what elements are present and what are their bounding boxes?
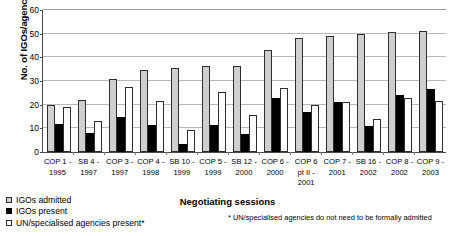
legend-item: UN/specialised agencies present* bbox=[6, 217, 145, 229]
bar-group bbox=[43, 10, 74, 152]
x-tick-mark bbox=[228, 152, 229, 155]
y-tick-label-60: 60 bbox=[15, 6, 39, 14]
x-tick-label: COP 6 pt II - 2001 bbox=[291, 157, 322, 189]
x-tick-label: COP 4 - 1998 bbox=[135, 157, 166, 189]
bar bbox=[342, 102, 350, 152]
bar-group bbox=[198, 10, 229, 152]
bar bbox=[86, 133, 94, 152]
bar bbox=[156, 101, 164, 152]
bar bbox=[295, 38, 303, 152]
x-tick-mark bbox=[104, 152, 105, 155]
bar bbox=[202, 66, 210, 152]
legend-label: IGOs present bbox=[16, 206, 67, 216]
bar bbox=[249, 115, 257, 152]
bar-group bbox=[229, 10, 260, 152]
x-tick-label: SB 4 - 1997 bbox=[73, 157, 104, 189]
bar bbox=[365, 126, 373, 152]
bar-group bbox=[353, 10, 384, 152]
bar bbox=[272, 98, 280, 152]
x-tick-mark bbox=[290, 152, 291, 155]
bar bbox=[264, 50, 272, 152]
bar bbox=[233, 66, 241, 152]
x-tick-mark bbox=[135, 152, 136, 155]
bar bbox=[187, 130, 195, 152]
legend-label: UN/specialised agencies present* bbox=[16, 218, 145, 228]
bar bbox=[311, 105, 319, 152]
x-tick-label: COP 5 - 1999 bbox=[197, 157, 228, 189]
x-tick-label: COP 6 - 2000 bbox=[260, 157, 291, 189]
bar-group bbox=[415, 10, 446, 152]
legend-item: IGOs admitted bbox=[6, 194, 145, 206]
bar bbox=[280, 88, 288, 152]
y-tick-mark-0 bbox=[40, 152, 43, 153]
y-tick-label-0: 0 bbox=[15, 148, 39, 156]
y-tick-label-10: 10 bbox=[15, 124, 39, 132]
x-tick-label: COP 3 - 1997 bbox=[104, 157, 135, 189]
x-tick-label: COP 1 - 1995 bbox=[42, 157, 73, 189]
x-tick-mark bbox=[197, 152, 198, 155]
legend-swatch-icon bbox=[6, 197, 12, 203]
y-tick-label-30: 30 bbox=[15, 77, 39, 85]
x-tick-mark bbox=[321, 152, 322, 155]
bar bbox=[388, 32, 396, 152]
x-tick-mark bbox=[166, 152, 167, 155]
bar-group bbox=[384, 10, 415, 152]
bar bbox=[357, 34, 365, 152]
bar bbox=[404, 98, 412, 152]
bar-group bbox=[167, 10, 198, 152]
legend-label: IGOs admitted bbox=[16, 195, 71, 205]
bar bbox=[303, 112, 311, 152]
bar bbox=[396, 95, 404, 152]
x-tick-label: SB 12 - 2000 bbox=[228, 157, 259, 189]
bar bbox=[334, 102, 342, 152]
bar bbox=[435, 101, 443, 152]
x-tick-mark bbox=[73, 152, 74, 155]
footnote: * UN/specialised agencies do not need to… bbox=[228, 213, 432, 222]
bar bbox=[218, 92, 226, 152]
bar bbox=[171, 68, 179, 152]
bar bbox=[241, 134, 249, 152]
bar-group bbox=[74, 10, 105, 152]
x-tick-label: SB 10 - 1999 bbox=[166, 157, 197, 189]
legend-item: IGOs present bbox=[6, 206, 145, 218]
plot-area: 0102030405060 bbox=[42, 10, 446, 153]
bar-group bbox=[260, 10, 291, 152]
bar-chart: No. of IGOs/agencies 0102030405060 COP 1… bbox=[0, 0, 455, 236]
bar bbox=[148, 125, 156, 152]
legend-swatch-icon bbox=[6, 220, 12, 226]
y-tick-label-40: 40 bbox=[15, 53, 39, 61]
bar-group bbox=[322, 10, 353, 152]
bar bbox=[117, 117, 125, 153]
bar-group bbox=[136, 10, 167, 152]
x-tick-label: COP 7 - 2001 bbox=[322, 157, 353, 189]
x-tick-label: COP 9 - 2003 bbox=[415, 157, 446, 189]
bar bbox=[326, 36, 334, 152]
x-tick-mark bbox=[259, 152, 260, 155]
bar bbox=[125, 87, 133, 152]
x-tick-mark bbox=[414, 152, 415, 155]
legend-swatch-icon bbox=[6, 208, 12, 214]
bar bbox=[419, 31, 427, 152]
bar bbox=[63, 107, 71, 152]
bar bbox=[210, 125, 218, 152]
x-tick-mark bbox=[383, 152, 384, 155]
bar bbox=[109, 79, 117, 152]
bar bbox=[140, 70, 148, 152]
y-tick-label-20: 20 bbox=[15, 101, 39, 109]
x-tick-mark bbox=[352, 152, 353, 155]
legend: IGOs admittedIGOs presentUN/specialised … bbox=[6, 194, 145, 229]
bar bbox=[427, 89, 435, 152]
bar-group bbox=[291, 10, 322, 152]
x-tick-label: COP 8 - 2002 bbox=[384, 157, 415, 189]
bar bbox=[78, 100, 86, 152]
bar bbox=[373, 119, 381, 152]
bar bbox=[47, 105, 55, 152]
bar bbox=[179, 144, 187, 152]
bar-group bbox=[105, 10, 136, 152]
x-tick-label: SB 16 - 2002 bbox=[353, 157, 384, 189]
bar bbox=[55, 124, 63, 152]
bar bbox=[94, 121, 102, 152]
x-axis-tick-labels: COP 1 - 1995SB 4 - 1997COP 3 - 1997COP 4… bbox=[42, 157, 446, 189]
y-tick-label-50: 50 bbox=[15, 30, 39, 38]
bar-groups bbox=[43, 10, 446, 152]
